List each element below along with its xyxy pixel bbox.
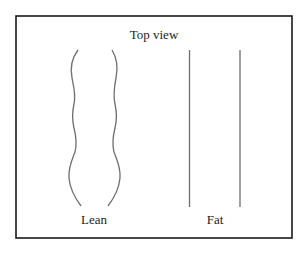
fat-label: Fat: [207, 212, 224, 227]
diagram-canvas: Top view Lean Fat: [0, 0, 302, 253]
diagram-title: Top view: [130, 27, 179, 42]
lean-label: Lean: [81, 212, 107, 227]
diagram-frame: [16, 16, 292, 238]
